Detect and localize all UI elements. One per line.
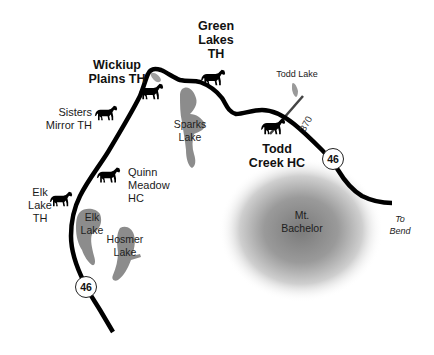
label-wickiup-plains-th: Wickiup Plains TH: [82, 58, 152, 86]
label-line: Lake: [102, 246, 148, 259]
label-green-lakes-th: Green Lakes TH: [193, 19, 239, 61]
horse-icon-quinn-meadow: [97, 168, 120, 183]
label-line: To: [385, 213, 415, 225]
label-sisters-mirror-th: Sisters Mirror TH: [40, 106, 92, 132]
label-todd-lake: Todd Lake: [272, 69, 322, 80]
label-line: HC: [128, 192, 178, 205]
label-line: TH: [193, 47, 239, 61]
label-sparks-lake: Sparks Lake: [170, 118, 210, 144]
label-todd-creek-hc: Todd Creek HC: [244, 142, 310, 170]
label-line: Meadow: [128, 179, 178, 192]
label-mt-bachelor: Mt. Bachelor: [275, 209, 329, 235]
label-line: Bend: [385, 225, 415, 237]
highway-46-shield-east: 46: [322, 148, 344, 170]
label-line: Lake: [170, 131, 210, 144]
horse-icon-green-lakes: [201, 70, 225, 86]
label-line: Elk: [24, 186, 56, 199]
label-quinn-meadow-hc: Quinn Meadow HC: [128, 166, 178, 205]
horse-icon-sisters-mirror: [95, 106, 117, 120]
todd-lake-shape: [292, 83, 298, 97]
label-line: Green: [193, 19, 239, 33]
label-to-bend: To Bend: [385, 213, 415, 237]
label-line: Plains TH: [82, 72, 152, 86]
label-line: Mt.: [275, 209, 329, 222]
label-line: Lakes: [193, 33, 239, 47]
label-line: Hosmer: [102, 233, 148, 246]
label-line: TH: [24, 212, 56, 225]
label-line: Lake: [24, 199, 56, 212]
label-line: Todd: [244, 142, 310, 156]
wickiup-pond-shape: [151, 73, 161, 82]
label-line: Creek HC: [244, 156, 310, 170]
label-line: Bachelor: [275, 222, 329, 235]
highway-46-shield-south: 46: [75, 276, 97, 298]
trail-map: Wickiup Plains TH Green Lakes TH Sisters…: [0, 0, 434, 355]
label-line: Mirror TH: [40, 119, 92, 132]
label-line: Sisters: [40, 106, 92, 119]
label-line: Wickiup: [82, 58, 152, 72]
label-line: Elk: [77, 211, 107, 224]
label-elk-lake-th: Elk Lake TH: [24, 186, 56, 225]
label-hosmer-lake: Hosmer Lake: [102, 233, 148, 259]
label-line: Sparks: [170, 118, 210, 131]
label-line: Quinn: [128, 166, 178, 179]
